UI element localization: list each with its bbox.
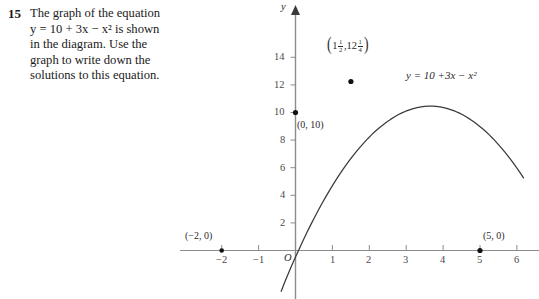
y-tick-label-4: 4 bbox=[280, 190, 285, 201]
y-tick-label-2: 2 bbox=[280, 218, 285, 229]
y-tick-marks bbox=[291, 57, 296, 223]
question-text: The graph of the equation y = 10 + 3x − … bbox=[30, 6, 198, 84]
x-tick-marks bbox=[222, 245, 517, 250]
y-axis-label: y bbox=[281, 2, 286, 13]
vertex-close-paren: ) bbox=[364, 34, 369, 53]
x-tick-label--1: −1 bbox=[253, 255, 264, 266]
x-tick-label-2: 2 bbox=[366, 255, 371, 266]
question-number: 15 bbox=[8, 6, 21, 22]
marker-root-right bbox=[477, 248, 482, 253]
question-line-4: graph to write down the bbox=[30, 53, 198, 69]
vertex-x-numerator: 1 bbox=[338, 39, 343, 46]
vertex-x-fraction: 12 bbox=[338, 39, 343, 54]
x-tick-label--2: −2 bbox=[216, 255, 227, 266]
x-tick-label-1: 1 bbox=[330, 255, 335, 266]
vertex-x-whole: 1 bbox=[332, 40, 337, 51]
vertex-y-denominator: 4 bbox=[358, 46, 363, 54]
y-tick-label-10: 10 bbox=[274, 107, 285, 118]
question-line-1: The graph of the equation bbox=[30, 6, 198, 22]
marker-y-intercept bbox=[293, 110, 298, 115]
origin-label: O bbox=[284, 253, 292, 264]
vertex-y-whole: 12 bbox=[347, 40, 358, 51]
y-intercept-label: (0, 10) bbox=[297, 120, 324, 130]
y-tick-label-12: 12 bbox=[274, 80, 285, 91]
marker-root-left bbox=[219, 248, 224, 253]
question-line-3: in the diagram. Use the bbox=[30, 37, 198, 53]
curve-equation-label: y = 10 +3x − x² bbox=[406, 70, 476, 81]
x-tick-label-5: 5 bbox=[477, 255, 482, 266]
y-axis-arrow-icon bbox=[291, 5, 300, 15]
x-tick-label-6: 6 bbox=[514, 255, 519, 266]
vertex-label: (112,1214) bbox=[326, 33, 370, 54]
vertex-y-fraction: 14 bbox=[358, 39, 363, 54]
graph-figure: y O −2 −1 1 2 3 4 5 6 2 4 6 8 10 12 14 (… bbox=[180, 0, 539, 299]
x-tick-label-3: 3 bbox=[403, 255, 408, 266]
root-right-label: (5, 0) bbox=[483, 231, 505, 241]
x-tick-label-4: 4 bbox=[440, 255, 445, 266]
y-tick-label-14: 14 bbox=[274, 52, 285, 63]
vertex-open-paren: ( bbox=[327, 34, 332, 53]
vertex-x-denominator: 2 bbox=[338, 46, 343, 54]
vertex-y-numerator: 1 bbox=[358, 39, 363, 46]
y-tick-label-8: 8 bbox=[280, 135, 285, 146]
question-line-5: solutions to this equation. bbox=[30, 68, 198, 84]
root-left-label: (−2, 0) bbox=[185, 231, 212, 241]
marker-vertex bbox=[348, 79, 353, 84]
question-line-2: y = 10 + 3x − x² is shown bbox=[30, 22, 198, 38]
y-tick-label-6: 6 bbox=[280, 163, 285, 174]
